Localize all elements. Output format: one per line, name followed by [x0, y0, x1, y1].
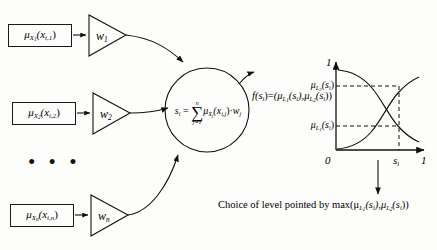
weight-3-index: n: [106, 215, 110, 224]
weight-label-2: w2: [100, 107, 112, 122]
summation-operator: n ∑ j=1: [191, 100, 203, 125]
plot-x-tick-origin: 0: [325, 154, 331, 166]
ellipsis-indicator: • • •: [28, 150, 81, 175]
node-lhs-index: i: [179, 110, 181, 117]
sum-lower-limit: j=1: [191, 119, 203, 125]
caption-mid: (s: [365, 199, 373, 210]
input-3-arg-close: ): [54, 208, 58, 220]
input-box-2: μX2(xi,2): [12, 102, 76, 125]
output-arg-open: (s: [255, 90, 263, 101]
input-3-arg-open: (x: [39, 208, 48, 220]
caption-end: (s: [392, 199, 400, 210]
connector-weight3-to-node: [128, 155, 178, 215]
input-1-arg-close: ): [52, 28, 56, 40]
weight-1-symbol: w: [96, 29, 104, 43]
figure-caption: Choice of level pointed by max(μL1(si),μ…: [218, 199, 409, 212]
weight-2-index: 2: [108, 113, 112, 122]
x-mid-index: i: [397, 160, 399, 167]
plot-y-tick-one: 1: [326, 56, 332, 68]
caption-mid-close: ),μ: [375, 199, 386, 210]
input-2-arg-open: (x: [41, 106, 50, 118]
connector-weight1-to-node: [126, 35, 183, 62]
input-2-arg-close: ): [56, 106, 60, 118]
plot-x-tick-si: si: [393, 154, 399, 167]
plot-y-label-upper: μL2(si): [268, 79, 334, 92]
y-upper-arg-close: ): [331, 79, 334, 90]
curve-mu-l2: [338, 70, 419, 142]
weight-2-symbol: w: [100, 107, 108, 121]
plot-x-tick-one: 1: [421, 154, 427, 166]
input-1-arg-open: (x: [37, 28, 46, 40]
y-lower-arg-close: ): [331, 119, 334, 130]
connector-node-to-output: [239, 72, 254, 84]
weight-label-3: wn: [98, 209, 110, 224]
node-term-arg-open: (x: [213, 105, 221, 116]
weight-label-1: w1: [96, 29, 108, 44]
plot-y-label-lower: μL1(si): [268, 119, 334, 132]
weight-3-symbol: w: [98, 209, 106, 223]
y-lower-arg: (s: [322, 119, 329, 130]
y-upper-arg: (s: [322, 79, 329, 90]
input-box-3: μXn(xi,n): [10, 204, 74, 227]
node-term-w-index: j: [239, 110, 241, 117]
curve-mu-l1: [337, 77, 419, 149]
caption-prefix: Choice of level pointed by max(μ: [218, 199, 359, 210]
weight-1-index: 1: [104, 35, 108, 44]
node-equals: =: [183, 105, 189, 116]
input-box-1: μX1(xi,1): [8, 24, 72, 47]
figure-canvas: μX1(xi,1) μX2(xi,2) μXn(xi,n) w1 w2 wn •…: [0, 0, 437, 250]
caption-end-close: )): [402, 199, 409, 210]
node-equation: si = n ∑ j=1 μXj(xi,j)·wj: [160, 99, 256, 124]
